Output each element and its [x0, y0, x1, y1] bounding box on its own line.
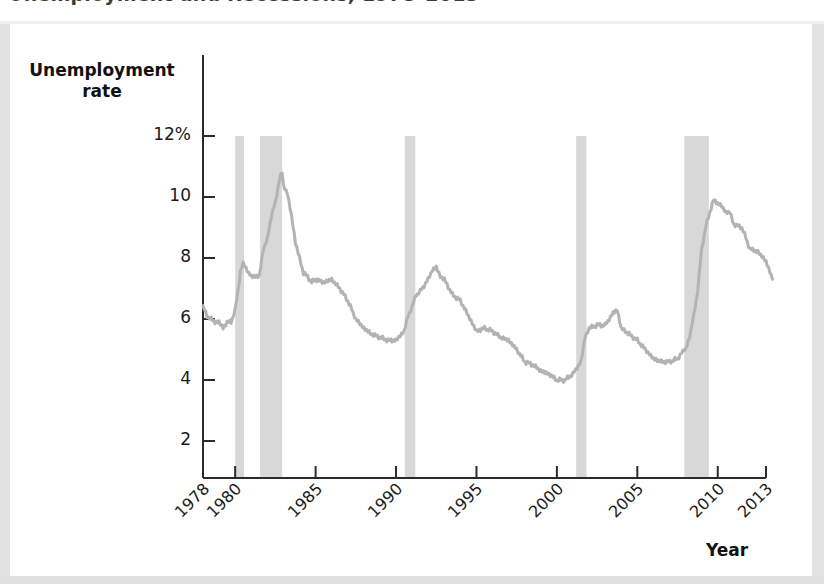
y-tick-marks-group	[203, 136, 215, 441]
recession-bands-group	[235, 136, 709, 478]
axis-lines-group	[203, 55, 766, 478]
y-tick-label: 6	[121, 307, 191, 327]
y-tick-label: 2	[121, 429, 191, 449]
figure-container: Unemployment and Recessions, 1978–2013 U…	[0, 0, 824, 584]
y-tick-label: 4	[121, 368, 191, 388]
recession-band	[405, 136, 416, 478]
y-tick-label: 12%	[121, 124, 191, 144]
recession-band	[576, 136, 586, 478]
y-tick-label: 8	[121, 246, 191, 266]
x-tick-marks-group	[203, 466, 766, 478]
y-tick-label: 10	[121, 185, 191, 205]
